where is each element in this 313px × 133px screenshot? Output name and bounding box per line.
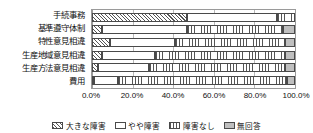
legend-swatch-icon: [115, 122, 126, 129]
bar-segment: [94, 76, 118, 85]
legend-label: 障害なし: [183, 120, 215, 131]
bar-segment: [92, 13, 187, 22]
legend-item[interactable]: 大きな障害: [52, 120, 106, 131]
y-axis-label: 基準遵守体制: [0, 22, 88, 35]
y-axis-label: 特性意見相違: [0, 35, 88, 48]
x-tick-label: 40.0%: [162, 91, 185, 100]
x-tick-label: 60.0%: [203, 91, 226, 100]
legend-swatch-icon: [169, 122, 180, 129]
legend-label: やや障害: [128, 120, 160, 131]
bar-segment: [118, 76, 286, 85]
legend-label: 大きな障害: [66, 120, 106, 131]
y-axis-category-labels: 手続事務基準遵守体制特性意見相違生産地域意見相違生産方法意見相違費用: [0, 9, 88, 89]
y-axis-label: 費用: [0, 75, 88, 88]
legend-item[interactable]: やや障害: [115, 120, 161, 131]
plot-area: [91, 9, 296, 89]
bar-segment: [102, 25, 187, 34]
bar-row: [92, 25, 295, 34]
bar-segment: [110, 38, 175, 47]
bar-segment: [285, 38, 295, 47]
bar-segment: [187, 25, 282, 34]
bar-segment: [287, 76, 295, 85]
bar-segment: [277, 13, 295, 22]
bar-segment: [149, 63, 285, 72]
stacked-bar-chart: 手続事務基準遵守体制特性意見相違生産地域意見相違生産方法意見相違費用 0.0%2…: [0, 0, 313, 133]
bar-segment: [155, 51, 285, 60]
x-tick-label: 80.0%: [244, 91, 267, 100]
bar-row: [92, 76, 295, 85]
bar-row: [92, 51, 295, 60]
bar-segment: [102, 51, 155, 60]
bar-segment: [92, 25, 102, 34]
bar-segment: [175, 38, 285, 47]
x-axis-tick-labels: 0.0%20.0%40.0%60.0%80.0%100.0%: [91, 91, 296, 103]
legend-item[interactable]: 無回答: [224, 120, 262, 131]
y-axis-label: 手続事務: [0, 9, 88, 22]
bar-rows: [92, 10, 295, 88]
x-tick-label: 0.0%: [82, 91, 100, 100]
chart-legend: 大きな障害やや障害障害なし無回答: [0, 120, 313, 133]
bar-row: [92, 63, 295, 72]
legend-label: 無回答: [237, 120, 261, 131]
bar-segment: [92, 51, 102, 60]
y-axis-label: 生産方法意見相違: [0, 62, 88, 75]
y-axis-label: 生産地域意見相違: [0, 49, 88, 62]
bar-segment: [285, 63, 295, 72]
legend-swatch-icon: [224, 122, 235, 129]
bar-segment: [98, 63, 149, 72]
legend-item[interactable]: 障害なし: [169, 120, 215, 131]
legend-swatch-icon: [52, 122, 63, 129]
bar-row: [92, 13, 295, 22]
bar-segment: [283, 25, 295, 34]
bar-segment: [92, 38, 110, 47]
gridline: [295, 10, 296, 88]
bar-segment: [187, 13, 276, 22]
bar-segment: [285, 51, 295, 60]
bar-row: [92, 38, 295, 47]
x-tick-label: 20.0%: [121, 91, 144, 100]
x-tick-label: 100.0%: [282, 91, 309, 100]
